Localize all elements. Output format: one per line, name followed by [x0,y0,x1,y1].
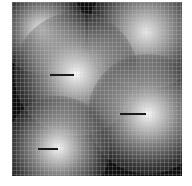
line-marker [50,74,74,76]
line-marker [38,148,58,150]
image-field [12,2,182,176]
line-marker [120,113,146,115]
